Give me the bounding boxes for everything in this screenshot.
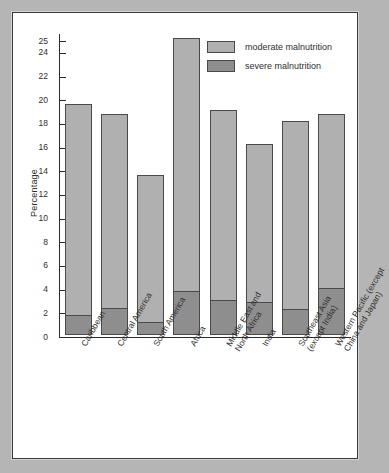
y-axis-title: Percentage: [29, 148, 39, 238]
legend-item-severe[interactable]: severe malnutrition: [207, 60, 332, 72]
legend-label: severe malnutrition: [245, 61, 321, 71]
bar-middle-east-and-north-africa[interactable]: [210, 110, 237, 335]
y-tick-22: [59, 77, 66, 78]
y-tick-label-18: 18: [22, 119, 48, 128]
y-tick-label-6: 6: [22, 261, 48, 270]
segment-moderate: [173, 38, 200, 292]
segment-moderate: [318, 114, 345, 289]
y-tick-label-24: 24: [22, 48, 48, 57]
y-tick-label-0: 0: [22, 333, 48, 342]
y-tick-20: [59, 100, 66, 101]
legend-item-moderate[interactable]: moderate malnutrition: [207, 41, 332, 53]
chart-figure-panel: 02468101214161820222425 Percentage Carib…: [12, 12, 358, 459]
y-tick-label-20: 20: [22, 96, 48, 105]
y-tick-label-2: 2: [22, 309, 48, 318]
y-tick-label-8: 8: [22, 238, 48, 247]
bar-caribbean[interactable]: [65, 104, 92, 335]
y-tick-24: [59, 53, 66, 54]
y-tick-label-4: 4: [22, 285, 48, 294]
segment-moderate: [210, 110, 237, 300]
segment-moderate: [246, 144, 273, 302]
y-tick-0: [59, 337, 66, 338]
bar-africa[interactable]: [173, 38, 200, 335]
bar-southeast-asia-except-india[interactable]: [282, 121, 309, 335]
x-label-line: China and Japan): [341, 271, 389, 353]
segment-moderate: [282, 121, 309, 310]
chart-legend: moderate malnutritionsevere malnutrition: [207, 41, 332, 79]
legend-label: moderate malnutrition: [245, 42, 332, 52]
segment-moderate: [101, 114, 128, 309]
bar-central-america[interactable]: [101, 114, 128, 335]
legend-swatch-severe: [207, 60, 235, 72]
segment-moderate: [65, 104, 92, 316]
y-tick-25: [59, 41, 66, 42]
y-tick-label-25: 25: [22, 37, 48, 46]
legend-swatch-moderate: [207, 41, 235, 53]
y-axis-line: [59, 34, 60, 338]
y-tick-label-22: 22: [22, 72, 48, 81]
stacked-bar-chart: 02468101214161820222425 Percentage Carib…: [13, 13, 357, 458]
